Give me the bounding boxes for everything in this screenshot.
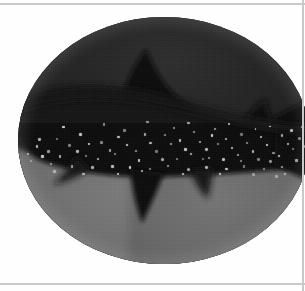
whale-shark-spot xyxy=(56,138,58,140)
whale-shark-spot xyxy=(237,154,239,156)
whale-shark-spot xyxy=(278,155,280,157)
whale-shark-spot xyxy=(214,128,216,130)
whale-shark-spot xyxy=(240,160,242,162)
whale-shark-spot xyxy=(240,133,243,136)
whale-shark-spot xyxy=(126,144,128,146)
whale-shark-spot xyxy=(269,126,271,128)
whale-shark-spot xyxy=(182,173,184,175)
whale-shark-spot xyxy=(161,158,164,161)
whale-shark-spot xyxy=(71,165,74,168)
whale-shark-spot xyxy=(79,133,82,136)
whale-shark-spot xyxy=(199,141,201,143)
whale-shark-spot xyxy=(30,160,32,162)
whale-shark-spot xyxy=(228,123,230,125)
whale-shark-spot xyxy=(205,148,208,151)
whale-shark-spot xyxy=(205,166,208,169)
whale-shark-spot xyxy=(187,122,189,124)
whale-shark-spot xyxy=(123,129,126,132)
whale-shark-spot xyxy=(176,158,178,160)
whale-shark-spot xyxy=(246,142,249,145)
whale-shark-spot xyxy=(295,159,298,162)
whale-shark-spot xyxy=(202,158,204,160)
whale-shark-spot xyxy=(290,129,293,132)
whale-shark-spot xyxy=(141,170,143,172)
whale-shark-spot xyxy=(284,173,287,176)
whale-shark-spot xyxy=(82,173,84,175)
whale-shark-spot xyxy=(164,134,166,136)
whale-shark-spot xyxy=(76,150,78,152)
whale-shark-spot xyxy=(252,173,255,176)
whale-shark-spot xyxy=(252,150,254,152)
whale-shark-spot xyxy=(222,158,225,161)
whale-shark-spot xyxy=(193,131,195,133)
whale-shark-spot xyxy=(225,168,228,171)
whale-shark-spot xyxy=(88,143,90,145)
whale-shark-spot xyxy=(38,138,41,141)
whale-shark-spot xyxy=(50,163,52,165)
whale-shark-spot xyxy=(117,173,119,175)
whale-shark-spot xyxy=(173,127,175,129)
whale-shark-spot xyxy=(62,126,65,129)
whale-shark-spot xyxy=(47,150,50,153)
whale-shark-spot xyxy=(68,144,71,147)
whale-shark-spot xyxy=(304,145,305,148)
whale-shark-spot xyxy=(266,144,268,146)
whale-shark-spot xyxy=(208,157,210,159)
whale-shark-spot xyxy=(269,160,272,163)
whale-shark-spot xyxy=(117,136,119,138)
whale-shark-spot xyxy=(281,166,283,168)
whale-shark-spot xyxy=(155,150,157,152)
whale-shark-spot xyxy=(129,166,131,168)
whale-shark-spot-pattern xyxy=(18,17,305,264)
document-page: Whale shark photographed from the side i… xyxy=(0,0,305,291)
whale-shark-spot xyxy=(85,155,87,157)
whale-shark-spot xyxy=(243,165,245,167)
whale-shark-spot xyxy=(91,166,94,169)
whale-shark-spot xyxy=(114,153,116,155)
whale-shark-spot xyxy=(111,165,114,168)
whale-shark-spot xyxy=(53,170,56,173)
whale-shark-spot xyxy=(27,153,29,155)
whale-shark-spot xyxy=(184,148,187,151)
whale-shark-spot xyxy=(187,168,190,171)
whale-shark-spot xyxy=(255,128,257,130)
page-rule-right xyxy=(302,0,304,291)
whale-shark-spot xyxy=(109,149,112,152)
whale-shark-spot xyxy=(97,158,100,161)
whale-shark-spot xyxy=(170,143,172,145)
whale-shark-spot xyxy=(41,155,43,157)
whale-shark-spot xyxy=(100,141,103,144)
whale-shark-spot xyxy=(292,148,294,150)
whale-shark-spot xyxy=(190,153,192,155)
whale-shark-spot xyxy=(219,173,221,175)
whale-shark-spot xyxy=(231,147,233,149)
photo-plate-whale-shark xyxy=(18,17,305,264)
page-rule-bottom xyxy=(0,283,305,285)
whale-shark-spot xyxy=(281,134,284,137)
whale-shark-spot xyxy=(179,139,182,142)
whale-shark-spot xyxy=(260,136,262,138)
whale-shark-spot xyxy=(287,143,289,145)
whale-shark-spot xyxy=(225,138,227,140)
whale-shark-spot xyxy=(36,145,38,147)
whale-shark-spot xyxy=(298,137,301,140)
whale-shark-spot xyxy=(263,168,265,170)
whale-shark-spot xyxy=(272,152,275,155)
whale-shark-spot xyxy=(144,133,147,136)
whale-shark-spot xyxy=(275,175,278,178)
plate-alt-text: Whale shark photographed from the side i… xyxy=(0,0,1,1)
whale-shark-spot xyxy=(149,142,152,145)
whale-shark-spot xyxy=(146,121,148,123)
whale-shark-spot xyxy=(135,150,137,152)
whale-shark-spot xyxy=(257,158,260,161)
whale-shark-spot xyxy=(59,155,62,158)
page-rule-top xyxy=(0,3,305,5)
whale-shark-spot xyxy=(167,165,169,167)
whale-shark-spot xyxy=(103,123,106,126)
whale-shark-spot xyxy=(138,159,141,162)
whale-shark-spot xyxy=(217,143,220,146)
whale-shark-spot xyxy=(211,134,214,137)
whale-shark-spot xyxy=(149,168,151,170)
